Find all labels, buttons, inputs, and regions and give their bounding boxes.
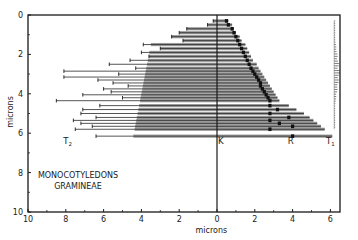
chart-container: 1086420246 0246810 microns microns T2KRT… (0, 0, 358, 240)
x-tick-label: 10 (23, 215, 33, 224)
x-tick-label: 4 (290, 215, 295, 224)
x-tick-label: 0 (214, 215, 219, 224)
r-marker (268, 99, 271, 103)
annotation-r: R (288, 136, 294, 146)
r-marker (246, 59, 249, 63)
y-tick-label: 4 (18, 90, 23, 99)
r-marker (227, 23, 230, 27)
y-tick-label: 2 (18, 50, 23, 59)
r-marker (268, 119, 271, 123)
r-marker (232, 31, 235, 35)
r-marker (248, 62, 251, 66)
r-marker (268, 112, 271, 116)
r-marker (234, 35, 237, 39)
r-marker (278, 122, 281, 126)
t1-distribution (334, 21, 340, 129)
chart-title-line: GRAMINEAE (54, 182, 102, 191)
r-marker (244, 55, 247, 59)
r-marker (287, 116, 290, 120)
r-marker (268, 127, 271, 131)
x-tick-label: 6 (328, 215, 333, 224)
y-tick-label: 10 (13, 208, 23, 217)
r-marker (242, 51, 245, 55)
y-axis-label: microns (6, 96, 15, 128)
annotation-k: K (218, 136, 224, 146)
x-tick-label: 4 (139, 215, 144, 224)
x-axis-label: microns (195, 226, 227, 235)
y-tick-label: 6 (18, 129, 23, 138)
y-tick-label: 8 (18, 169, 23, 178)
x-tick-label: 6 (101, 215, 106, 224)
r-marker (240, 47, 243, 51)
x-tick-label: 8 (63, 215, 68, 224)
r-marker (236, 39, 239, 43)
x-axis: 1086420246 (23, 209, 333, 224)
y-tick-label: 0 (18, 11, 23, 20)
r-marker (225, 19, 228, 23)
x-tick-label: 2 (252, 215, 257, 224)
r-marker (231, 27, 234, 31)
x-tick-label: 2 (177, 215, 182, 224)
range-bar-chart: 1086420246 0246810 microns microns T2KRT… (0, 0, 358, 240)
annotation-t1: T1 (325, 136, 335, 147)
annotation-t2: T2 (62, 136, 72, 147)
r-marker (268, 104, 271, 108)
r-marker (238, 43, 241, 47)
bars-layer (56, 19, 332, 138)
chart-title: MONOCOTYLEDONSGRAMINEAE (38, 171, 118, 191)
r-marker (276, 108, 279, 112)
chart-title-line: MONOCOTYLEDONS (38, 171, 118, 180)
r-marker (291, 125, 294, 129)
